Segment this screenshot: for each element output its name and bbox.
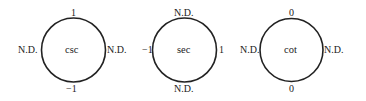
- sec-bottom-label: N.D.: [174, 84, 193, 94]
- sec-left-label: −1: [142, 45, 153, 55]
- trig-unit-circle-diagrams: csc 1 −1 N.D. N.D. sec N.D. N.D. −1 1 co…: [0, 0, 366, 101]
- cot-center-label: cot: [284, 45, 297, 55]
- cot-top-label: 0: [289, 8, 294, 18]
- sec-center-label: sec: [177, 45, 190, 55]
- sec-right-label: 1: [219, 45, 224, 55]
- csc-center-label: csc: [65, 45, 78, 55]
- csc-right-label: N.D.: [107, 45, 126, 55]
- cot-right-label: N.D.: [324, 45, 343, 55]
- csc-bottom-label: −1: [66, 84, 77, 94]
- csc-top-label: 1: [71, 8, 76, 18]
- cot-bottom-label: 0: [289, 84, 294, 94]
- csc-left-label: N.D.: [18, 45, 37, 55]
- cot-left-label: N.D.: [240, 45, 259, 55]
- sec-top-label: N.D.: [174, 8, 193, 18]
